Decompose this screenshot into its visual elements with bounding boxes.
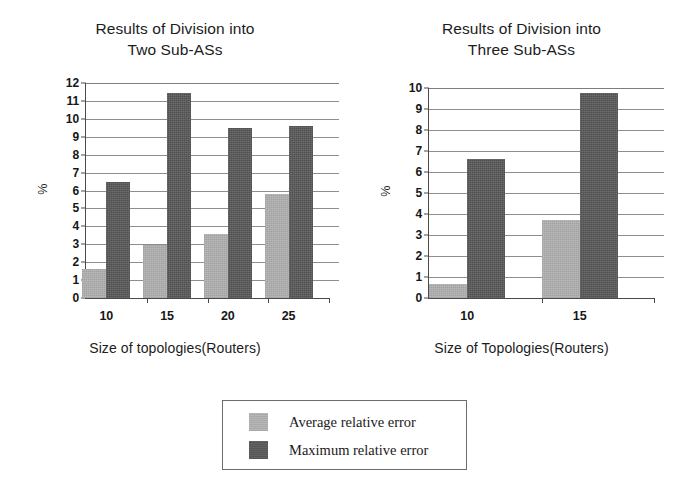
y-tick-label: 7 [415,144,422,158]
x-tick-mark [329,298,330,303]
chart-panel-two-sub-as: Results of Division into Two Sub-ASs % 0… [0,0,350,390]
y-tick-mark [81,262,86,263]
y-tick-label: 7 [72,166,79,180]
y-tick-label: 4 [415,207,422,221]
y-tick-label: 9 [415,102,422,116]
y-tick-mark [424,172,429,173]
bar-average-10 [429,284,467,298]
x-axis-label-left: Size of topologies(Routers) [0,340,350,356]
bar-maximum-15 [580,93,618,298]
y-tick-mark [424,214,429,215]
y-tick-mark [424,193,429,194]
x-tick-label-10: 10 [460,309,474,323]
gridline [429,88,664,89]
y-tick-mark [424,256,429,257]
gridline [86,101,339,102]
bar-average-10 [82,269,106,298]
chart-title-right: Results of Division into Three Sub-ASs [350,18,693,60]
y-tick-mark [424,130,429,131]
gridline [429,214,664,215]
gridline [429,151,664,152]
legend-item-maximum: Maximum relative error [249,441,428,459]
y-tick-label: 0 [72,291,79,305]
y-tick-mark [81,118,86,119]
x-tick-label-15: 15 [573,309,587,323]
bar-maximum-20 [228,128,252,298]
y-axis-label-left: % [36,183,50,194]
y-tick-label: 5 [72,201,79,215]
legend-label-average: Average relative error [289,414,416,431]
chart-panel-three-sub-as: Results of Division into Three Sub-ASs %… [350,0,693,390]
gridline [86,119,339,120]
chart-title-left: Results of Division into Two Sub-ASs [0,18,350,60]
x-tick-label-10: 10 [99,309,113,323]
y-tick-mark [81,208,86,209]
legend-swatch-average [249,413,268,431]
y-tick-mark [81,154,86,155]
x-tick-mark [208,298,209,303]
y-tick-label: 6 [415,165,422,179]
y-tick-mark [424,109,429,110]
bar-maximum-10 [467,159,505,298]
bar-average-15 [143,245,167,298]
y-axis-label-right: % [379,185,393,196]
x-tick-mark [542,298,543,303]
y-tick-label: 9 [72,130,79,144]
y-tick-label: 12 [66,76,79,90]
y-tick-label: 8 [415,123,422,137]
gridline [429,172,664,173]
x-axis-label-right: Size of Topologies(Routers) [350,340,693,356]
y-tick-label: 6 [72,184,79,198]
gridline [429,130,664,131]
y-tick-label: 1 [415,270,422,284]
x-tick-mark [147,298,148,303]
y-tick-label: 0 [415,291,422,305]
y-tick-label: 2 [415,249,422,263]
legend-label-maximum: Maximum relative error [289,442,428,459]
y-tick-label: 2 [72,255,79,269]
y-tick-mark [81,83,86,84]
y-tick-label: 1 [72,273,79,287]
y-tick-label: 10 [409,81,422,95]
bar-maximum-15 [167,93,191,298]
chart-legend: Average relative error Maximum relative … [222,400,467,470]
gridline [86,83,339,84]
y-tick-mark [424,88,429,89]
plot-area-left: 012345678910111210152025 [85,83,329,299]
y-tick-mark [81,100,86,101]
y-tick-label: 8 [72,148,79,162]
y-tick-mark [424,151,429,152]
y-tick-mark [81,136,86,137]
x-tick-label-20: 20 [221,309,235,323]
y-tick-label: 4 [72,219,79,233]
x-tick-label-25: 25 [282,309,296,323]
bar-maximum-25 [289,126,313,298]
x-tick-mark [268,298,269,303]
x-tick-label-15: 15 [160,309,174,323]
y-tick-mark [81,226,86,227]
gridline [429,193,664,194]
y-tick-label: 3 [415,228,422,242]
x-tick-mark [654,298,655,303]
y-tick-mark [81,172,86,173]
y-tick-mark [81,244,86,245]
bar-average-15 [542,220,580,298]
y-tick-mark [424,277,429,278]
y-tick-label: 3 [72,237,79,251]
y-tick-mark [424,235,429,236]
y-tick-label: 5 [415,186,422,200]
y-tick-label: 11 [67,94,80,108]
plot-area-right: 0123456789101015 [428,88,654,299]
bar-maximum-10 [106,182,130,298]
bar-average-20 [204,234,228,298]
y-tick-label: 10 [66,112,79,126]
y-tick-mark [424,298,429,299]
gridline [429,109,664,110]
y-tick-mark [81,190,86,191]
bar-average-25 [265,194,289,298]
legend-item-average: Average relative error [249,413,416,431]
legend-swatch-maximum [249,441,268,459]
